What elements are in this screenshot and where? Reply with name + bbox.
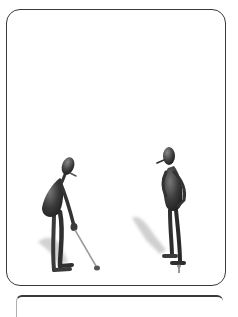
golfer-right-figure <box>132 147 185 273</box>
golf-club <box>75 230 96 266</box>
golf-ball <box>94 266 100 271</box>
golfer-right-shadow <box>132 217 166 254</box>
golfer-left-head <box>59 155 76 176</box>
golfer-left-figure <box>38 155 100 270</box>
golfer-right-head <box>163 147 175 165</box>
